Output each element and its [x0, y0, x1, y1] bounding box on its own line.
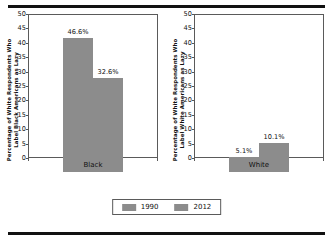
legend-item-2012[interactable]: 2012 — [175, 203, 212, 211]
legend-label-2012: 2012 — [194, 203, 212, 211]
y-tick-labels-black: 50 45 40 35 30 25 20 15 10 5 0 — [6, 14, 26, 158]
bar-value-label-black-1990: 46.6% — [68, 28, 89, 36]
bar-group-black: 46.6% 32.6% — [28, 28, 158, 172]
chart-panel-black: Percentage of White Respondents Who Labe… — [0, 14, 166, 186]
top-divider-rule — [8, 5, 325, 8]
x-axis-white: White — [194, 158, 324, 172]
legend-swatch-1990 — [122, 204, 136, 211]
y-tick-labels-white: 50 45 40 35 30 25 20 15 10 5 0 — [172, 14, 192, 158]
bar-value-label-white-2012: 10.1% — [264, 133, 285, 141]
legend-swatch-2012 — [175, 204, 189, 211]
x-axis-label-white: White — [194, 161, 324, 169]
x-axis-label-black: Black — [28, 161, 158, 169]
bottom-divider-rule — [8, 232, 325, 235]
x-axis-black: Black — [28, 158, 158, 172]
legend-label-1990: 1990 — [141, 203, 159, 211]
bar-value-label-white-1990: 5.1% — [236, 147, 253, 155]
chart-panels: Percentage of White Respondents Who Labe… — [0, 14, 333, 186]
plot-area-white: 50 45 40 35 30 25 20 15 10 5 0 — [194, 14, 324, 172]
bar-black-1990[interactable]: 46.6% — [63, 38, 93, 172]
bar-group-white: 5.1% 10.1% — [194, 28, 324, 172]
chart-panel-white: Percentage of White Respondents Who Labe… — [166, 14, 332, 186]
chart-legend: 1990 2012 — [112, 199, 222, 215]
legend-item-1990[interactable]: 1990 — [122, 203, 159, 211]
bar-value-label-black-2012: 32.6% — [98, 68, 119, 76]
plot-area-black: 50 45 40 35 30 25 20 15 10 5 0 — [28, 14, 158, 172]
